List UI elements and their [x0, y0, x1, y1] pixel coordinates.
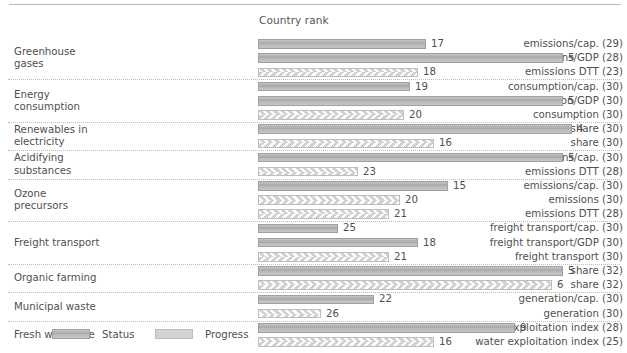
top-divider — [9, 4, 621, 5]
chart-legend: Status Progress — [0, 327, 627, 347]
legend-item-status: Status — [52, 327, 134, 341]
progress-swatch-icon — [155, 329, 193, 339]
bar-value-label: 15 — [453, 179, 466, 193]
legend-label-status: Status — [102, 329, 134, 340]
bar-area: 5 — [258, 94, 627, 108]
progress-bar — [258, 68, 418, 78]
bar-value-label: 5 — [568, 51, 574, 65]
status-bar — [258, 53, 563, 63]
bar-area: 5 — [258, 151, 627, 165]
progress-bar — [258, 110, 404, 120]
chart-row: freight transport (30)21 — [0, 250, 627, 264]
bar-area: 4 — [258, 122, 627, 136]
status-bar — [258, 238, 418, 248]
bar-area: 23 — [258, 165, 627, 179]
chart-row: freight transport/cap. (30)25 — [0, 221, 627, 235]
bar-value-label: 18 — [423, 236, 436, 250]
chart-rows: emissions/cap. (29)17emissions/GDP (28)5… — [0, 37, 627, 349]
bar-area: 19 — [258, 80, 627, 94]
status-bar — [258, 181, 448, 191]
group-label: Freight transport — [14, 237, 144, 249]
bar-value-label: 20 — [409, 108, 422, 122]
chart-page: Country rank emissions/cap. (29)17emissi… — [0, 0, 627, 353]
bar-value-label: 22 — [379, 292, 392, 306]
bar-value-label: 19 — [415, 80, 428, 94]
bar-area: 25 — [258, 221, 627, 235]
bar-area: 21 — [258, 207, 627, 221]
status-bar — [258, 96, 563, 106]
legend-label-progress: Progress — [205, 329, 248, 340]
bar-value-label: 26 — [326, 307, 339, 321]
status-bar — [258, 153, 563, 163]
bar-area: 18 — [258, 65, 627, 79]
status-bar — [258, 266, 563, 276]
bar-area: 15 — [258, 179, 627, 193]
bar-area: 17 — [258, 37, 627, 51]
group-label: Energy consumption — [14, 89, 144, 114]
progress-bar — [258, 139, 434, 149]
bar-area: 16 — [258, 136, 627, 150]
bar-area: 5 — [258, 264, 627, 278]
group-label: Municipal waste — [14, 301, 144, 313]
progress-bar — [258, 280, 552, 290]
bar-area: 20 — [258, 108, 627, 122]
bar-area: 26 — [258, 307, 627, 321]
group-label: Renewables in electricity — [14, 124, 144, 149]
bar-value-label: 17 — [431, 37, 444, 51]
bar-value-label: 23 — [363, 165, 376, 179]
status-bar — [258, 39, 426, 49]
bar-value-label: 4 — [577, 122, 583, 136]
bar-value-label: 16 — [439, 136, 452, 150]
bar-value-label: 21 — [394, 250, 407, 264]
bar-area: 18 — [258, 236, 627, 250]
bar-value-label: 25 — [343, 221, 356, 235]
bar-value-label: 21 — [394, 207, 407, 221]
bar-area: 5 — [258, 51, 627, 65]
bar-area: 22 — [258, 292, 627, 306]
status-bar — [258, 224, 338, 234]
status-bar — [258, 82, 410, 92]
bar-value-label: 5 — [568, 264, 574, 278]
progress-bar — [258, 195, 400, 205]
group-label: Organic farming — [14, 272, 144, 284]
progress-bar — [258, 167, 358, 177]
bar-value-label: 6 — [557, 278, 563, 292]
progress-bar — [258, 252, 389, 262]
group-label: Greenhouse gases — [14, 46, 144, 71]
group-label: Ozone precursors — [14, 188, 144, 213]
group-label: Acidifying substances — [14, 152, 144, 177]
bar-area: 6 — [258, 278, 627, 292]
chart-title: Country rank — [259, 14, 329, 26]
bar-area: 20 — [258, 193, 627, 207]
progress-bar — [258, 309, 321, 319]
bar-value-label: 5 — [568, 151, 574, 165]
status-bar — [258, 295, 374, 305]
bar-value-label: 5 — [568, 94, 574, 108]
bar-area: 21 — [258, 250, 627, 264]
status-bar — [258, 124, 572, 134]
progress-bar — [258, 209, 389, 219]
legend-item-progress: Progress — [155, 327, 248, 341]
status-swatch-icon — [52, 329, 90, 339]
bar-value-label: 18 — [423, 65, 436, 79]
bar-value-label: 20 — [405, 193, 418, 207]
